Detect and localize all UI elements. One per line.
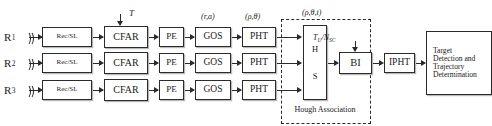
annotation-tu-nsc-mid: /N: [322, 33, 330, 42]
block-recsl-r1[interactable]: Rec/SL: [42, 27, 92, 47]
block-pe-r1-label: PE: [166, 32, 177, 41]
block-recsl-r2[interactable]: Rec/SL: [42, 53, 92, 73]
receiver-label-r3-sub: 3: [12, 86, 16, 95]
block-pe-r3[interactable]: PE: [159, 80, 184, 100]
arrow-recsl-cfar-r2: [93, 63, 103, 64]
annotation-tu-nsc-sub2: SC: [329, 37, 336, 43]
arrow-threshold-into-cfar: [120, 14, 121, 25]
block-hough-space-label-h: H: [312, 45, 318, 54]
receiver-label-r3: R3: [4, 84, 15, 96]
arrow-cfar-pe-r3: [149, 90, 158, 91]
arrow-bi-to-ipht: [373, 63, 383, 64]
block-gos-r3[interactable]: GOS: [195, 80, 231, 100]
annotation-rho-theta-t: (ρ,θ,t): [302, 8, 321, 17]
block-recsl-r3-label: Rec/SL: [57, 86, 78, 93]
annotation-threshold-t: T: [129, 8, 134, 18]
arrow-pe-gos-r2: [185, 63, 194, 64]
block-gos-r1[interactable]: GOS: [195, 27, 231, 47]
block-pe-r1[interactable]: PE: [159, 27, 184, 47]
block-cfar-r1[interactable]: CFAR: [104, 26, 148, 48]
receiver-label-r2-base: R: [4, 57, 11, 69]
block-ipht-label: IPHT: [389, 58, 410, 68]
receiver-label-r2-sub: 2: [12, 59, 16, 68]
receiver-label-r3-base: R: [4, 84, 11, 96]
block-gos-r1-label: GOS: [203, 32, 222, 42]
block-hough-space-label-s: S: [313, 72, 318, 81]
arrow-r2-to-recsl: [34, 63, 42, 64]
block-gos-r2[interactable]: GOS: [195, 53, 231, 73]
block-pht-r3-label: PHT: [250, 85, 268, 95]
block-pe-r3-label: PE: [166, 85, 177, 94]
block-pht-r2-label: PHT: [250, 58, 268, 68]
block-cfar-r2-label: CFAR: [113, 58, 138, 69]
block-pht-r1[interactable]: PHT: [242, 27, 276, 47]
block-gos-r3-label: GOS: [203, 85, 222, 95]
receiver-label-r2: R2: [4, 57, 15, 69]
arrow-r1-to-recsl: [34, 37, 42, 38]
receiver-label-r1-base: R: [4, 31, 11, 43]
block-final-text: Target Detection and Trajectory Determin…: [433, 47, 477, 79]
final-line-4: Determination: [433, 71, 477, 79]
arrow-recsl-cfar-r1: [93, 37, 103, 38]
arrow-r3-to-recsl: [34, 90, 42, 91]
receiver-label-r1-sub: 1: [12, 33, 16, 42]
arrow-hs-to-bi: [328, 63, 338, 64]
block-gos-r2-label: GOS: [203, 58, 222, 68]
block-recsl-r3[interactable]: Rec/SL: [42, 80, 92, 100]
block-pht-r3[interactable]: PHT: [242, 80, 276, 100]
block-cfar-r2[interactable]: CFAR: [104, 52, 148, 74]
block-pht-r1-label: PHT: [250, 32, 268, 42]
arrow-cfar-pe-r2: [149, 63, 158, 64]
receiver-label-r1: R1: [4, 31, 15, 43]
block-pe-r2-label: PE: [166, 58, 177, 67]
annotation-range-angle: (r,a): [201, 12, 215, 21]
arrow-tu-nsc-into-bi: [355, 41, 356, 51]
annotation-tu-nsc: TU/NSC: [313, 33, 336, 43]
arrow-pe-gos-r3: [185, 90, 194, 91]
block-recsl-r1-label: Rec/SL: [57, 33, 78, 40]
block-recsl-r2-label: Rec/SL: [57, 59, 78, 66]
arrow-gos-pht-r3: [232, 90, 241, 91]
arrow-ipht-to-final: [416, 63, 425, 64]
block-pht-r2[interactable]: PHT: [242, 53, 276, 73]
arrow-gos-pht-r2: [232, 63, 241, 64]
block-cfar-r1-label: CFAR: [113, 32, 138, 43]
block-cfar-r3[interactable]: CFAR: [104, 79, 148, 101]
arrow-cfar-pe-r1: [149, 37, 158, 38]
block-pe-r2[interactable]: PE: [159, 53, 184, 73]
arrow-pe-gos-r1: [185, 37, 194, 38]
block-target-detection-trajectory[interactable]: Target Detection and Trajectory Determin…: [426, 31, 492, 95]
arrow-recsl-cfar-r3: [93, 90, 103, 91]
hough-association-caption: Hough Association: [281, 105, 369, 114]
block-ipht[interactable]: IPHT: [384, 53, 415, 73]
annotation-rho-theta: (ρ,θ): [245, 12, 260, 21]
block-bi-label: BI: [350, 57, 361, 68]
block-bi[interactable]: BI: [339, 52, 372, 74]
block-cfar-r3-label: CFAR: [113, 85, 138, 96]
arrow-gos-pht-r1: [232, 37, 241, 38]
